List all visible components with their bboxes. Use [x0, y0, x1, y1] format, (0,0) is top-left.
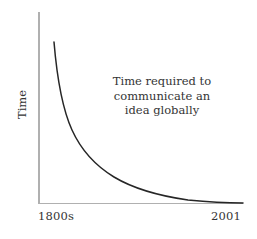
annotation-line-2: communicate an	[110, 89, 214, 104]
annotation-line-1: Time required to	[110, 74, 214, 89]
chart-plot-area	[0, 0, 257, 239]
x-tick-label-end: 2001	[211, 209, 241, 223]
decay-curve	[54, 42, 243, 203]
annotation-line-3: idea globally	[110, 103, 214, 118]
chart-figure: Time 1800s 2001 Time required to communi…	[0, 0, 257, 239]
y-axis-label: Time	[15, 101, 29, 119]
x-tick-label-start: 1800s	[38, 209, 74, 223]
chart-annotation: Time required to communicate an idea glo…	[110, 74, 214, 118]
